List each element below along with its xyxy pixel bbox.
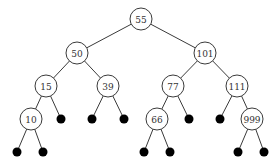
tree-nodes: 55501011539771111066999 <box>13 8 269 157</box>
nil-leaf-node <box>57 115 66 124</box>
tree-node-77: 77 <box>162 75 184 97</box>
node-label: 77 <box>167 82 179 92</box>
nil-leaf-node <box>260 148 269 157</box>
node-label: 15 <box>40 82 52 92</box>
tree-node-101: 101 <box>194 42 216 64</box>
tree-node-999: 999 <box>241 108 263 130</box>
node-label: 50 <box>71 49 83 59</box>
nil-leaf-node <box>166 148 175 157</box>
node-label: 39 <box>102 82 114 92</box>
tree-node-39: 39 <box>97 75 119 97</box>
tree-node-15: 15 <box>35 75 57 97</box>
nil-leaf-node <box>140 148 149 157</box>
node-label: 55 <box>135 15 147 25</box>
tree-node-66: 66 <box>146 108 168 130</box>
node-label: 10 <box>25 115 37 125</box>
node-label: 101 <box>196 49 213 59</box>
node-label: 111 <box>228 82 245 92</box>
nil-leaf-node <box>39 148 48 157</box>
nil-leaf-node <box>120 115 129 124</box>
nil-leaf-node <box>185 115 194 124</box>
tree-node-55: 55 <box>130 8 152 30</box>
tree-node-50: 50 <box>66 42 88 64</box>
binary-tree-diagram: 55501011539771111066999 <box>0 0 277 165</box>
nil-leaf-node <box>234 148 243 157</box>
node-label: 66 <box>151 115 163 125</box>
tree-node-10: 10 <box>20 108 42 130</box>
node-label: 999 <box>243 115 260 125</box>
nil-leaf-node <box>216 115 225 124</box>
tree-node-111: 111 <box>226 75 248 97</box>
nil-leaf-node <box>13 148 22 157</box>
nil-leaf-node <box>88 115 97 124</box>
